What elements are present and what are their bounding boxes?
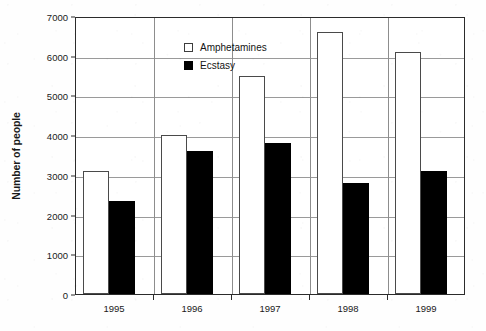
legend-swatch-amphetamines-icon <box>184 43 193 52</box>
group-divider <box>154 18 155 294</box>
y-axis-tick-mark <box>71 136 75 137</box>
y-axis-tick-label: 4000 <box>20 131 68 142</box>
bar-ecstasy-1996 <box>187 151 213 294</box>
bar-amphetamines-1995 <box>83 171 109 294</box>
x-axis-tick-label-1997: 1997 <box>235 303 305 314</box>
y-axis-tick-mark <box>71 295 75 296</box>
bar-ecstasy-1999 <box>421 171 447 294</box>
plot-area: Amphetamines Ecstasy <box>75 17 465 295</box>
legend-item-amphetamines: Amphetamines <box>184 39 267 55</box>
bar-amphetamines-1996 <box>161 135 187 294</box>
y-axis-tick-label: 6000 <box>20 51 68 62</box>
y-axis-tick-mark <box>71 96 75 97</box>
legend-item-ecstasy: Ecstasy <box>184 57 267 73</box>
x-axis-tick-label-1995: 1995 <box>79 303 149 314</box>
bar-amphetamines-1998 <box>317 32 343 294</box>
legend-label-amphetamines: Amphetamines <box>200 42 267 53</box>
y-axis-tick-label: 5000 <box>20 91 68 102</box>
y-axis-title: Number of people <box>10 96 22 216</box>
x-axis-tick-mark <box>231 295 232 300</box>
bar-chart-figure: Number of people Amphetamines Ecstasy 01… <box>0 0 486 331</box>
y-axis-tick-mark <box>71 56 75 57</box>
y-axis-tick-mark <box>71 175 75 176</box>
x-axis-tick-label-1998: 1998 <box>313 303 383 314</box>
legend-label-ecstasy: Ecstasy <box>200 60 235 71</box>
y-axis-tick-label: 1000 <box>20 250 68 261</box>
bar-amphetamines-1999 <box>395 52 421 294</box>
y-axis-tick-label: 2000 <box>20 210 68 221</box>
group-divider <box>310 18 311 294</box>
bar-ecstasy-1997 <box>265 143 291 294</box>
chart-legend: Amphetamines Ecstasy <box>184 39 267 75</box>
x-axis-tick-label-1999: 1999 <box>391 303 461 314</box>
y-axis-tick-label: 3000 <box>20 170 68 181</box>
group-divider <box>388 18 389 294</box>
y-axis-tick-label: 0 <box>20 290 68 301</box>
y-axis-tick-label: 7000 <box>20 12 68 23</box>
y-axis-tick-mark <box>71 17 75 18</box>
y-axis-tick-mark <box>71 215 75 216</box>
bar-ecstasy-1995 <box>109 201 135 294</box>
bar-amphetamines-1997 <box>239 76 265 294</box>
x-axis-tick-mark <box>387 295 388 300</box>
x-axis-tick-mark <box>309 295 310 300</box>
y-axis-tick-mark <box>71 255 75 256</box>
legend-swatch-ecstasy-icon <box>184 61 193 70</box>
x-axis-tick-label-1996: 1996 <box>157 303 227 314</box>
x-axis-tick-mark <box>153 295 154 300</box>
bar-ecstasy-1998 <box>343 183 369 294</box>
